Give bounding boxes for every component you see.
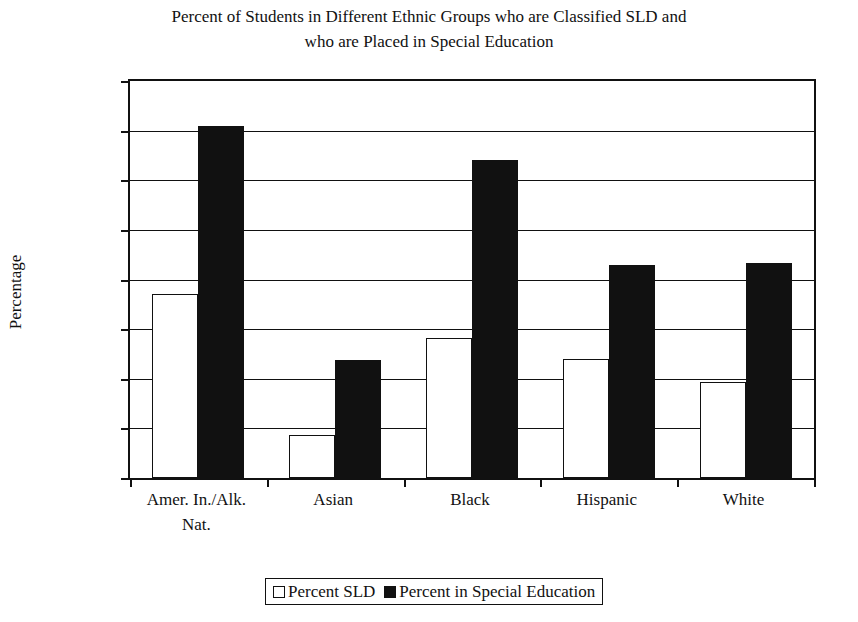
x-axis-category-label-line: Hispanic: [538, 487, 675, 512]
chart-title-line-2: who are Placed in Special Education: [95, 29, 763, 54]
x-axis-labels: Amer. In./Alk.Nat.AsianBlackHispanicWhit…: [128, 487, 812, 547]
y-tick-mark: [121, 329, 130, 331]
y-tick-mark: [121, 230, 130, 232]
x-tick-mark: [130, 478, 132, 487]
x-axis-category-label: Amer. In./Alk.Nat.: [128, 487, 265, 537]
y-tick-mark: [121, 131, 130, 133]
y-tick-mark: [121, 280, 130, 282]
bar-percent-special-education: [609, 265, 655, 478]
legend-label: Percent SLD: [288, 582, 375, 602]
legend-entry: Percent SLD: [273, 582, 375, 602]
bar-percent-sld: [700, 382, 746, 478]
x-tick-mark: [677, 478, 679, 487]
x-axis-category-label-line: Amer. In./Alk.: [128, 487, 265, 512]
x-tick-mark: [540, 478, 542, 487]
y-tick-mark: [121, 478, 130, 480]
bar-percent-special-education: [335, 360, 381, 478]
bar-percent-sld: [426, 338, 472, 478]
y-tick-mark: [121, 379, 130, 381]
chart-legend: Percent SLDPercent in Special Education: [265, 578, 603, 605]
bar-percent-sld: [289, 435, 335, 478]
x-axis-category-label: Hispanic: [538, 487, 675, 512]
legend-entry: Percent in Special Education: [384, 582, 595, 602]
x-tick-mark: [404, 478, 406, 487]
plot-area: [128, 79, 816, 480]
x-tick-mark: [814, 478, 816, 487]
y-tick-mark: [121, 428, 130, 430]
legend-open-square-icon: [273, 586, 285, 598]
x-axis-category-label: Black: [402, 487, 539, 512]
y-tick-mark: [121, 180, 130, 182]
y-tick-mark: [121, 81, 130, 83]
x-axis-category-label-line: White: [675, 487, 812, 512]
x-tick-mark: [267, 478, 269, 487]
bar-percent-sld: [152, 294, 198, 478]
chart-title-line-1: Percent of Students in Different Ethnic …: [95, 4, 763, 29]
bar-percent-special-education: [472, 160, 518, 478]
x-axis-category-label-line: Asian: [265, 487, 402, 512]
bar-percent-special-education: [746, 263, 792, 478]
bar-percent-special-education: [198, 126, 244, 478]
legend-label: Percent in Special Education: [399, 582, 595, 602]
x-axis-category-label: Asian: [265, 487, 402, 512]
bars-layer: [130, 81, 814, 478]
x-axis-category-label: White: [675, 487, 812, 512]
x-axis-category-label-line: Nat.: [128, 512, 265, 537]
x-axis-category-label-line: Black: [402, 487, 539, 512]
bar-percent-sld: [563, 359, 609, 478]
chart-title: Percent of Students in Different Ethnic …: [95, 4, 763, 54]
y-axis-title: Percentage: [6, 222, 26, 362]
legend-filled-square-icon: [384, 586, 396, 598]
